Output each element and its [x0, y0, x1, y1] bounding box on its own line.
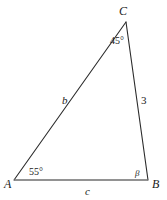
- angle-label-c: 45°: [110, 36, 124, 46]
- angle-label-b: β: [135, 169, 139, 178]
- triangle-figure: C A B b c 3 45° 55° β: [0, 0, 167, 200]
- vertex-label-b: B: [152, 178, 159, 190]
- side-label-b: b: [62, 95, 68, 106]
- side-label-c: c: [85, 186, 90, 197]
- vertex-label-c: C: [119, 5, 127, 17]
- side-length-label-a: 3: [141, 95, 147, 106]
- vertex-label-a: A: [4, 178, 11, 190]
- angle-label-a: 55°: [29, 167, 43, 177]
